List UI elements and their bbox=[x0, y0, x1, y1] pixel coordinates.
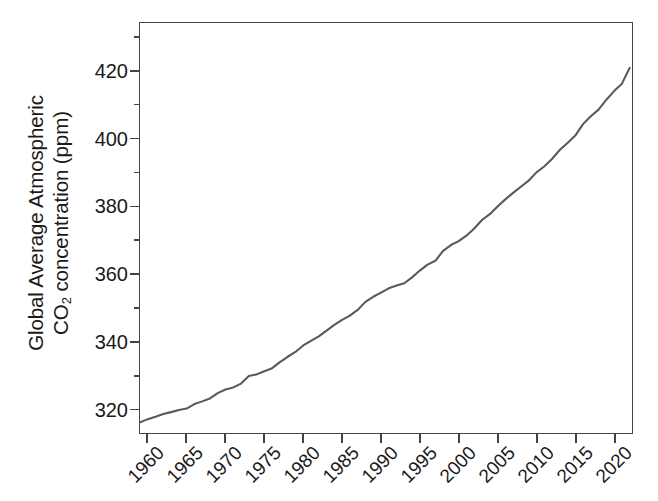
x-tick-major bbox=[185, 434, 187, 443]
data-line-co2 bbox=[140, 68, 630, 422]
y-axis-title: Global Average Atmospheric CO2 concentra… bbox=[0, 0, 96, 445]
x-tick-major bbox=[575, 434, 577, 443]
x-tick-major bbox=[419, 434, 421, 443]
x-tick-label: 2010 bbox=[513, 442, 558, 487]
x-tick-major bbox=[614, 434, 616, 443]
x-tick-major bbox=[341, 434, 343, 443]
y-tick-label: 320 bbox=[95, 398, 128, 421]
x-tick-major bbox=[536, 434, 538, 443]
y-axis-title-co2-subscript: 2 bbox=[59, 297, 74, 304]
y-tick-label: 400 bbox=[95, 127, 128, 150]
y-tick-major bbox=[130, 409, 139, 411]
y-tick-major bbox=[130, 341, 139, 343]
y-tick-label: 380 bbox=[95, 195, 128, 218]
x-tick-label: 2005 bbox=[474, 442, 519, 487]
x-tick-label: 2015 bbox=[552, 442, 597, 487]
y-axis-title-text: Global Average Atmospheric CO2 concentra… bbox=[23, 95, 73, 351]
y-tick-major bbox=[130, 138, 139, 140]
y-axis-title-co2-prefix: CO bbox=[49, 304, 72, 335]
x-tick-major bbox=[224, 434, 226, 443]
x-tick-label: 1965 bbox=[162, 442, 207, 487]
plot-area bbox=[139, 22, 633, 434]
x-tick-major bbox=[497, 434, 499, 443]
x-tick-major bbox=[380, 434, 382, 443]
y-tick-major bbox=[130, 273, 139, 275]
x-tick-label: 1985 bbox=[318, 442, 363, 487]
x-tick-label: 2000 bbox=[435, 442, 480, 487]
y-tick-label: 420 bbox=[95, 59, 128, 82]
y-tick-label: 360 bbox=[95, 263, 128, 286]
y-axis-title-line-1: Global Average Atmospheric bbox=[23, 95, 48, 351]
x-tick-label: 1960 bbox=[123, 442, 168, 487]
x-tick-label: 1980 bbox=[279, 442, 324, 487]
x-tick-label: 1990 bbox=[357, 442, 402, 487]
x-tick-major bbox=[302, 434, 304, 443]
data-line-svg bbox=[140, 23, 632, 433]
x-tick-major bbox=[263, 434, 265, 443]
y-tick-major bbox=[130, 206, 139, 208]
y-axis-title-suffix: concentration (ppm) bbox=[49, 111, 72, 297]
x-tick-label: 1970 bbox=[201, 442, 246, 487]
x-tick-label: 1975 bbox=[240, 442, 285, 487]
x-tick-label: 1995 bbox=[396, 442, 441, 487]
x-tick-label: 2020 bbox=[591, 442, 636, 487]
y-tick-label: 340 bbox=[95, 330, 128, 353]
y-tick-major bbox=[130, 70, 139, 72]
chart-figure: Global Average Atmospheric CO2 concentra… bbox=[0, 0, 658, 501]
x-tick-major bbox=[458, 434, 460, 443]
x-tick-major bbox=[146, 434, 148, 443]
y-axis-title-line-2: CO2 concentration (ppm) bbox=[48, 95, 73, 351]
